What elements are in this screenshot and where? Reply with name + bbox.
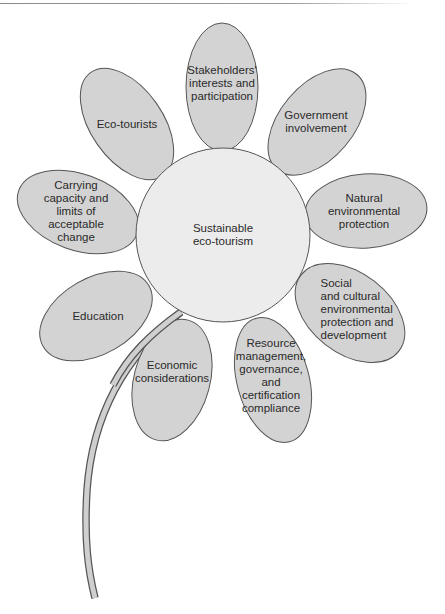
petal-label-education: Education bbox=[72, 310, 123, 323]
petal-label-government: Government involvement bbox=[284, 109, 347, 135]
petal-label-natural: Natural environmental protection bbox=[328, 192, 400, 231]
petal-label-resource: Resource management, governance, and cer… bbox=[236, 337, 306, 415]
petal-label-carrying: Carrying capacity and limits of acceptab… bbox=[44, 179, 109, 244]
center-label: Sustainable eco-tourism bbox=[193, 222, 253, 248]
petal-label-social: Social and cultural environmental protec… bbox=[321, 277, 394, 342]
petal-label-stakeholders: Stakeholders' interests and participatio… bbox=[187, 64, 256, 103]
petal-label-economic: Economic considerations bbox=[135, 359, 209, 385]
petal-label-ecotourists: Eco-tourists bbox=[97, 118, 158, 131]
